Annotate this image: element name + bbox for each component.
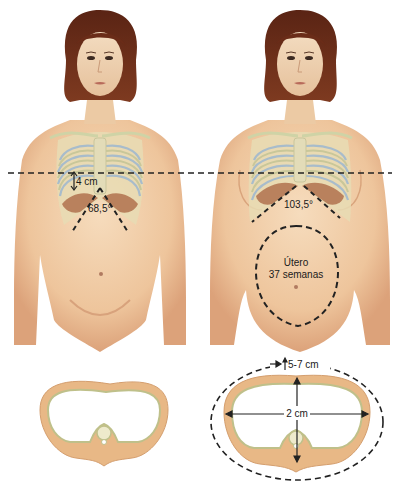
rib-height-label: 4 cm [76, 176, 98, 187]
left-eye-icon [87, 56, 95, 60]
transverse-diameter-label: 2 cm [286, 408, 308, 419]
non-pregnant-figure: 4 cm 68,5° [14, 10, 186, 352]
pregnant-figure: 103,5° Útero 37 semanas [210, 10, 390, 352]
sternum [294, 138, 306, 182]
right-eye-icon [105, 56, 113, 60]
subcostal-angle-label-right: 103,5° [284, 199, 313, 210]
uterus-label-line2: 37 semanas [269, 269, 323, 280]
anatomy-diagram: 4 cm 68,5° [0, 0, 400, 486]
circumference-increase-label: 5-7 cm [288, 359, 319, 370]
cross-section-non-pregnant [40, 381, 168, 466]
subcostal-angle-label-left: 68,5° [88, 203, 111, 214]
left-eye-icon [287, 56, 295, 60]
vertebra [289, 431, 303, 445]
navel [294, 285, 298, 289]
vertebra [97, 426, 111, 440]
face [277, 32, 323, 96]
navel [99, 272, 103, 276]
cross-section-pregnant: 2 cm 5-7 cm [211, 358, 383, 480]
face [77, 32, 123, 96]
uterus-label-line1: Útero [284, 256, 309, 268]
right-eye-icon [305, 56, 313, 60]
